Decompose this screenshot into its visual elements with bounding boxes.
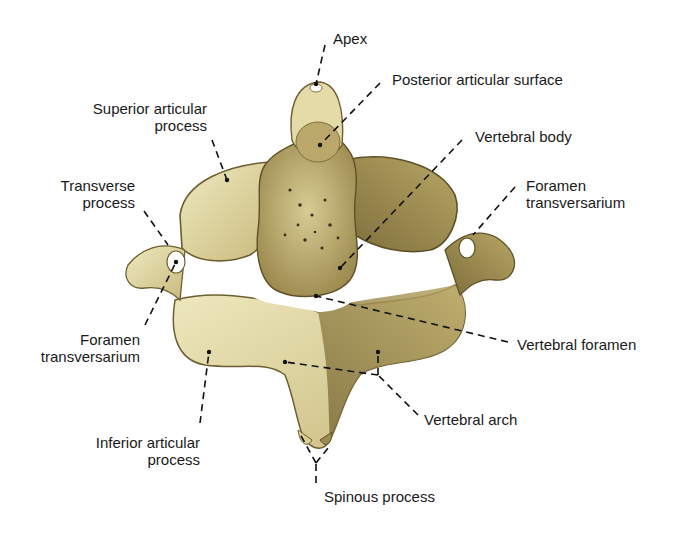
posterior-articular-surface-shape	[296, 122, 340, 162]
label-posterior-articular-surface: Posterior articular surface	[392, 71, 563, 88]
label-foramen-transversarium-right: Foramen transversarium	[526, 177, 625, 211]
label-vertebral-arch: Vertebral arch	[424, 411, 517, 428]
foramen-transversarium-right-hole	[459, 238, 475, 258]
label-superior-articular-process: Superior articular process	[72, 100, 207, 134]
label-vertebral-foramen: Vertebral foramen	[517, 336, 636, 353]
label-vertebral-body: Vertebral body	[475, 128, 572, 145]
label-apex: Apex	[333, 30, 367, 47]
label-foramen-transversarium-left: Foramen transversarium	[22, 331, 140, 365]
anatomy-diagram: Apex Posterior articular surface Superio…	[0, 0, 677, 537]
label-transverse-process: Transverse process	[40, 177, 135, 211]
label-spinous-process: Spinous process	[324, 488, 435, 505]
vertebral-body-shape	[257, 140, 357, 296]
label-inferior-articular-process: Inferior articular process	[74, 434, 200, 468]
